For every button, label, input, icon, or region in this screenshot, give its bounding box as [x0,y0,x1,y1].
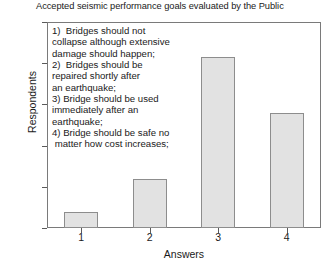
y-tick-mark [42,228,47,229]
y-axis-title: Respondents [26,47,38,157]
y-tick-mark [42,63,47,64]
bar [64,212,98,228]
bar [133,179,167,228]
bar [270,113,304,228]
bar [201,57,235,228]
y-tick-mark [42,104,47,105]
y-tick-mark [42,22,47,23]
bar-chart: Accepted seismic performance goals evalu… [0,0,334,267]
y-tick-mark [42,146,47,147]
annotation-text: 1) Bridges should not collapse although … [52,25,200,150]
y-tick-mark [42,187,47,188]
x-tick-label: 3 [198,231,238,243]
x-tick-label: 4 [267,231,307,243]
x-tick-label: 1 [61,231,101,243]
x-tick-label: 2 [130,231,170,243]
x-axis-title: Answers [47,248,321,260]
chart-title: Accepted seismic performance goals evalu… [36,1,334,11]
